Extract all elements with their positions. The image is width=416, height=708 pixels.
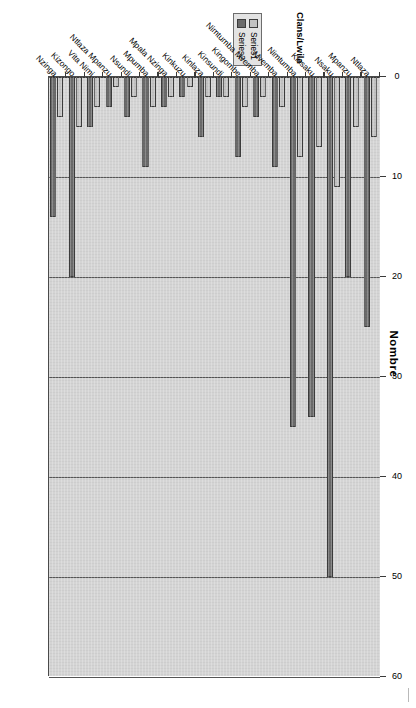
x-tick-mark [380,676,386,677]
plot-area: NtlazaMpanzuNsakuKinsakuNimtumbaMvembaNi… [48,76,380,676]
bar-series2 [272,77,278,167]
figure-frame: Nombre Clans/Lwila Series1Series2 Ntlaza… [0,0,416,708]
bar-series1 [316,77,322,147]
bar-series1 [279,77,285,107]
bar-series2 [161,77,167,107]
category-tick-mark [231,72,232,77]
bar-series2 [198,77,204,137]
bar-series2 [50,77,56,217]
bar-series2 [327,77,333,577]
x-tick-mark [380,76,386,77]
x-tick-label: 10 [387,171,407,181]
x-tick-label: 20 [387,271,407,281]
x-tick-label: 40 [387,471,407,481]
category-tick-mark [305,72,306,77]
x-tick-mark [380,276,386,277]
bar-series1 [168,77,174,97]
bar-series2 [106,77,112,107]
category-tick-mark [250,72,251,77]
bar-series1 [76,77,82,127]
bar-series1 [353,77,359,127]
bar-series1 [94,77,100,107]
category-tick-mark [176,72,177,77]
category-tick-mark [121,72,122,77]
bar-series2 [290,77,296,427]
bar-series2 [235,77,241,157]
bar-series1 [242,77,248,107]
x-tick-mark [380,376,386,377]
bar-series2 [142,77,148,167]
bar-chart: Nombre Clans/Lwila Series1Series2 Ntlaza… [0,0,416,708]
x-gridline [49,677,380,678]
category-tick-mark [194,72,195,77]
category-tick-mark [323,72,324,77]
bar-series1 [260,77,266,97]
bar-series1 [150,77,156,107]
x-tick-label: 0 [387,71,407,81]
bar-series1 [223,77,229,97]
category-tick-mark [65,72,66,77]
bar-series2 [179,77,185,97]
category-tick-mark [287,72,288,77]
x-tick-mark [380,176,386,177]
bar-series2 [345,77,351,277]
category-tick-mark [84,72,85,77]
chart-title: Nombre [388,0,400,708]
bar-series2 [69,77,75,277]
bar-series2 [87,77,93,127]
bar-series1 [334,77,340,187]
page-edge-mark [408,688,409,702]
category-tick-mark [157,72,158,77]
category-tick-mark [268,72,269,77]
bar-series2 [308,77,314,417]
category-tick-mark [360,72,361,77]
category-tick-mark [139,72,140,77]
bar-series1 [113,77,119,87]
category-tick-mark [102,72,103,77]
x-tick-label: 30 [387,371,407,381]
bar-series1 [371,77,377,137]
bar-series2 [216,77,222,97]
x-tick-mark [380,476,386,477]
category-tick-mark [342,72,343,77]
bar-series1 [297,77,303,157]
x-gridline [49,577,380,578]
bar-series2 [364,77,370,327]
bar-series1 [187,77,193,87]
bar-series1 [205,77,211,97]
bar-series1 [131,77,137,97]
category-tick-mark [213,72,214,77]
x-tick-mark [380,576,386,577]
bar-series2 [124,77,130,117]
x-tick-label: 50 [387,571,407,581]
bar-series2 [253,77,259,117]
bar-series1 [57,77,63,117]
x-tick-label: 60 [387,671,407,681]
